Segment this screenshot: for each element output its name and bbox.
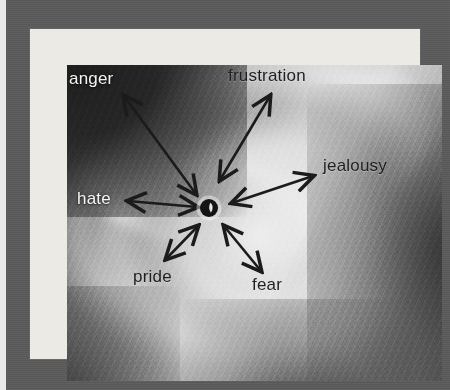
node-label-anger: anger	[69, 70, 113, 87]
node-label-frustration: frustration	[228, 67, 306, 84]
node-label-hate: hate	[77, 190, 111, 207]
node-label-jealousy: jealousy	[323, 157, 387, 174]
figure-root: angerfrustrationjealousyhatepridefear	[0, 0, 450, 390]
photo-grain-texture	[67, 65, 442, 381]
node-label-fear: fear	[252, 276, 282, 293]
hurricane-satellite-photo	[67, 65, 442, 381]
node-label-pride: pride	[133, 268, 172, 285]
